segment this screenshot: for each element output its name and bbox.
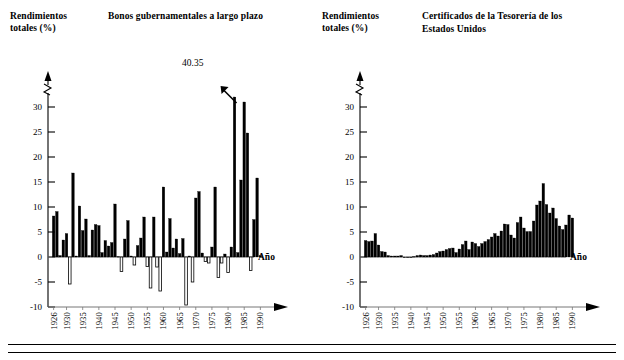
bar	[249, 257, 252, 271]
bar	[406, 257, 409, 258]
x-tick-label: 1975	[519, 312, 529, 330]
bar	[65, 234, 68, 258]
y-axis-label-left-line1: Rendimientos	[10, 10, 105, 22]
bar	[384, 252, 387, 257]
x-tick-label: 1960	[470, 312, 480, 330]
bar	[201, 253, 204, 257]
x-tick-label: 1985	[551, 312, 561, 330]
bar	[539, 201, 542, 257]
y-tick-label: -5	[18, 277, 42, 287]
bar	[536, 205, 539, 257]
bar	[243, 102, 246, 257]
bar	[240, 180, 243, 257]
bar	[85, 219, 88, 257]
x-tick-label: 1980	[223, 312, 233, 330]
bar	[403, 257, 406, 258]
x-tick-label: 1945	[110, 312, 120, 330]
bar	[542, 184, 545, 258]
y-axis-label-right-line1: Rendimientos	[322, 10, 417, 22]
bar	[455, 253, 458, 258]
x-tick-label: 1950	[438, 312, 448, 330]
bar	[468, 250, 471, 258]
bar	[471, 242, 474, 257]
bar	[487, 240, 490, 258]
bar	[474, 244, 477, 258]
x-tick-label: 1930	[374, 312, 384, 330]
bar	[214, 187, 217, 257]
plot-area-right	[352, 55, 600, 311]
bar	[169, 219, 172, 258]
bar	[558, 226, 561, 257]
x-tick-label: 1985	[239, 312, 249, 330]
chart-title-right-line2: Estados Unidos	[422, 23, 612, 36]
x-tick-label: 1990	[255, 312, 265, 330]
x-tick-label: 1970	[503, 312, 513, 330]
bar	[439, 252, 442, 258]
bar	[94, 225, 97, 258]
bar	[227, 257, 230, 273]
x-tick-label: 1965	[487, 312, 497, 330]
bar	[377, 245, 380, 257]
bar	[380, 252, 383, 258]
y-tick-label: 5	[330, 227, 354, 237]
bar	[110, 243, 113, 258]
bar	[68, 257, 71, 284]
bar	[364, 241, 367, 258]
y-tick-label: -10	[330, 302, 354, 312]
bar	[516, 223, 519, 258]
bar	[152, 217, 155, 257]
bar	[52, 216, 55, 257]
bar	[494, 234, 497, 258]
bar	[490, 237, 493, 257]
panel-certificados-tesoreria: Rendimientos totales (%) Certificados de…	[312, 0, 624, 360]
bar	[513, 238, 516, 257]
bar	[374, 234, 377, 258]
bar	[236, 253, 239, 258]
bar	[188, 256, 191, 257]
x-tick-label: 1940	[94, 312, 104, 330]
bar	[72, 173, 75, 257]
x-tick-label: 1950	[126, 312, 136, 330]
x-axis-arrow-icon	[274, 303, 288, 311]
x-tick-label: 1965	[175, 312, 185, 330]
bar	[445, 250, 448, 258]
y-tick-label: 25	[18, 127, 42, 137]
bar	[464, 241, 467, 257]
x-tick-label: 1935	[390, 312, 400, 330]
x-tick-label: 1970	[191, 312, 201, 330]
y-tick-label: 30	[18, 102, 42, 112]
bar	[143, 217, 146, 257]
bar	[397, 256, 400, 257]
y-tick-label: 0	[18, 252, 42, 262]
bar	[548, 213, 551, 257]
bar	[159, 257, 162, 291]
bar-group	[364, 184, 573, 258]
bar	[448, 249, 451, 258]
chart-title-left: Bonos gubernamentales a largo plazo	[108, 10, 308, 23]
x-tick-label: 1940	[406, 312, 416, 330]
bar-group	[52, 97, 261, 305]
bar	[461, 245, 464, 258]
bar	[410, 257, 413, 258]
bar	[400, 256, 403, 258]
bar	[91, 230, 94, 257]
x-tick-label: 1926	[361, 312, 371, 330]
bar	[387, 256, 390, 258]
y-tick-label: 0	[330, 252, 354, 262]
bar	[172, 248, 175, 257]
bar	[165, 252, 168, 257]
bar	[114, 204, 117, 257]
y-tick-label: 30	[330, 102, 354, 112]
bar	[98, 226, 101, 258]
x-tick-label: 1990	[567, 312, 577, 330]
y-tick-label: 20	[330, 152, 354, 162]
bar	[419, 255, 422, 257]
x-tick-label: 1980	[535, 312, 545, 330]
bar	[481, 244, 484, 258]
bar	[510, 235, 513, 257]
bar	[532, 221, 535, 257]
bar	[452, 248, 455, 257]
bar	[497, 236, 500, 257]
bar	[175, 239, 178, 257]
chart-title-left-line1: Bonos gubernamentales a largo plazo	[108, 10, 308, 23]
